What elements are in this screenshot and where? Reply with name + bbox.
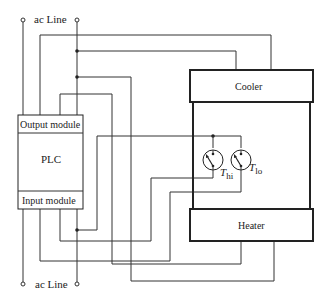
thermostat-hi-label: Thi [220, 166, 234, 181]
ac-terminal-bottom-right [75, 282, 79, 286]
output-module-label: Output module [20, 119, 81, 130]
ac-terminal-top-right [75, 18, 79, 22]
ac-line-top-label: ac Line [34, 13, 67, 25]
wiring-diagram: ac Line ac Line Output module PLC Input … [0, 0, 327, 304]
ac-line-bottom-label: ac Line [35, 278, 68, 290]
input-module-label: Input module [22, 195, 76, 206]
thermostat-lo-label: Tlo [249, 161, 263, 176]
plc-label: PLC [41, 153, 61, 165]
cooler-label: Cooler [235, 81, 263, 92]
thermostat-lo-icon [231, 150, 251, 172]
heater-label: Heater [238, 220, 265, 231]
ac-terminal-bottom-left [21, 282, 25, 286]
ac-terminal-top-left [21, 18, 25, 22]
